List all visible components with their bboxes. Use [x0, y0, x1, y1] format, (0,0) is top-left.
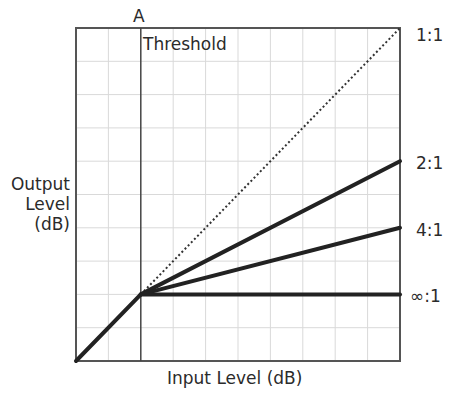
y-axis-label-line: Output	[4, 174, 70, 194]
y-axis-label-line: (dB)	[4, 214, 70, 234]
threshold-label: Threshold	[143, 34, 227, 54]
y-axis-label-line: Level	[4, 194, 70, 214]
ratio-label-1-1: 1:1	[416, 25, 443, 45]
y-axis-label: Output Level (dB)	[4, 174, 70, 234]
x-axis-label: Input Level (dB)	[167, 368, 302, 388]
ratio-label-2-1: 2:1	[416, 153, 443, 173]
ratio-label-4-1: 4:1	[416, 220, 443, 240]
ratio-label-inf-1: ∞:1	[410, 286, 441, 306]
threshold-marker-label: A	[133, 6, 145, 26]
